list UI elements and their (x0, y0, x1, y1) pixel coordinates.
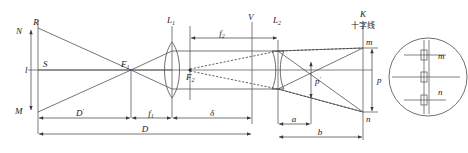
label-R: R (32, 17, 39, 27)
label-p-prime: p′ (314, 76, 322, 86)
dimension-p (363, 48, 378, 112)
label-a: a (292, 114, 297, 124)
label-f2: f2 (219, 28, 225, 39)
label-n-image: n (366, 114, 371, 124)
label-M: M (14, 106, 23, 116)
label-L2: L2 (272, 15, 281, 26)
label-K: K (359, 9, 367, 19)
ray-bundle-upper (38, 28, 278, 89)
eyepiece-detail-view (389, 38, 467, 116)
label-N: N (15, 26, 23, 36)
label-F2: F2 (185, 72, 195, 83)
construction-lines (131, 22, 363, 140)
label-p: p (376, 75, 382, 85)
optics-diagram: R N S M l F1 L1 F2 V L2 K 十字线 m n p p′ D… (0, 0, 468, 153)
label-detail-n: n (438, 87, 443, 97)
lens-L2-diverging (272, 40, 284, 124)
label-F1: F1 (120, 59, 130, 70)
label-f1: f1 (148, 108, 154, 119)
label-m-image: m (366, 37, 373, 47)
label-detail-m: m (438, 51, 445, 61)
ray-diagram-svg: R N S M l F1 L1 F2 V L2 K 十字线 m n p p′ D… (0, 0, 468, 153)
label-D: D (141, 124, 149, 134)
virtual-ray-bundle (190, 48, 363, 112)
ray-bundle-lower (38, 51, 278, 112)
label-S: S (43, 59, 48, 69)
label-b: b (318, 127, 323, 137)
label-delta: δ (210, 108, 215, 118)
label-D-prime: D′ (75, 108, 85, 118)
label-l: l (25, 65, 28, 75)
label-L1: L1 (166, 15, 175, 26)
label-V: V (248, 12, 255, 22)
lens-L1-converging (165, 26, 180, 118)
label-crosshair-cjk: 十字线 (351, 20, 375, 30)
